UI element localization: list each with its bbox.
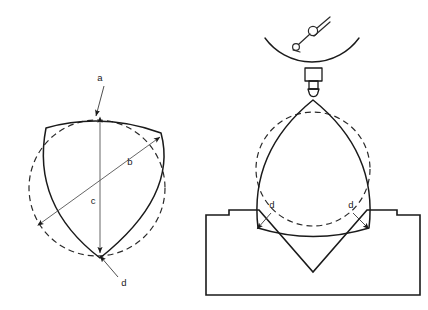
label-d-right-2: d	[348, 199, 353, 210]
label-b: b	[127, 156, 132, 167]
label-d-left: d	[121, 277, 126, 288]
diagram-canvas: a b c d	[0, 0, 428, 310]
label-a: a	[97, 72, 103, 83]
label-d-right-1: d	[269, 199, 274, 210]
label-c: c	[91, 195, 96, 206]
canvas-background	[0, 0, 428, 310]
technical-diagram-figure: a b c d	[0, 0, 428, 310]
